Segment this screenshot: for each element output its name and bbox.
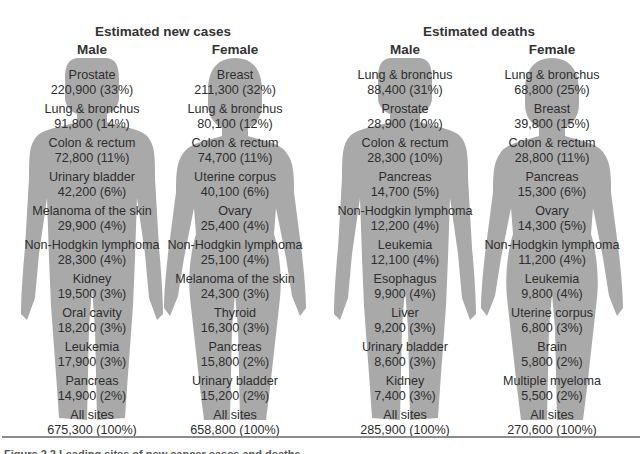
cancer-site-label: Non-Hodgkin lymphoma	[320, 204, 490, 219]
count-percent-value: 88,400 (31%)	[320, 83, 490, 98]
cancer-site-label: Uterine corpus	[150, 170, 320, 185]
count-percent-value: 211,300 (32%)	[150, 83, 320, 98]
cancer-site-label: Leukemia	[320, 238, 490, 253]
cancer-site-label: Colon & rectum	[150, 136, 320, 151]
count-percent-value: 9,200 (3%)	[320, 321, 490, 336]
count-percent-value: 7,400 (3%)	[320, 389, 490, 404]
list-item: Melanoma of the skin24,300 (3%)	[150, 272, 320, 306]
cancer-site-label: Multiple myeloma	[467, 374, 637, 389]
cancer-site-label: Kidney	[320, 374, 490, 389]
count-percent-value: 12,100 (4%)	[320, 253, 490, 268]
list-item: Non-Hodgkin lymphoma11,200 (4%)	[467, 238, 637, 272]
list-item: Kidney7,400 (3%)	[320, 374, 490, 408]
cancer-site-label: Thyroid	[150, 306, 320, 321]
count-percent-value: 8,600 (3%)	[320, 355, 490, 370]
count-percent-value: 14,700 (5%)	[320, 185, 490, 200]
cancer-site-label: Pancreas	[467, 170, 637, 185]
cancer-site-label: Leukemia	[467, 272, 637, 287]
list-item: Esophagus9,900 (4%)	[320, 272, 490, 306]
cancer-site-label: Non-Hodgkin lymphoma	[150, 238, 320, 253]
list-item: Brain5,800 (2%)	[467, 340, 637, 374]
list-item: Ovary25,400 (4%)	[150, 204, 320, 238]
count-percent-value: 25,100 (4%)	[150, 253, 320, 268]
count-percent-value: 25,400 (4%)	[150, 219, 320, 234]
cancer-site-label: Esophagus	[320, 272, 490, 287]
cancer-site-label: Pancreas	[320, 170, 490, 185]
count-percent-value: 80,100 (12%)	[150, 117, 320, 132]
count-percent-value: 15,200 (2%)	[150, 389, 320, 404]
column-new-cases-female: Breast211,300 (32%)Lung & bronchus80,100…	[150, 68, 320, 442]
cancer-site-label: Lung & bronchus	[150, 102, 320, 117]
list-item: Leukemia9,800 (4%)	[467, 272, 637, 306]
count-percent-value: 12,200 (4%)	[320, 219, 490, 234]
list-item: Prostate28,900 (10%)	[320, 102, 490, 136]
list-item: Urinary bladder15,200 (2%)	[150, 374, 320, 408]
list-item: Lung & bronchus88,400 (31%)	[320, 68, 490, 102]
cancer-site-label: Uterine corpus	[467, 306, 637, 321]
cancer-site-label: Urinary bladder	[150, 374, 320, 389]
list-item: Multiple myeloma5,500 (2%)	[467, 374, 637, 408]
count-percent-value: 28,800 (11%)	[467, 151, 637, 166]
list-item: Leukemia12,100 (4%)	[320, 238, 490, 272]
count-percent-value: 68,800 (25%)	[467, 83, 637, 98]
column-deaths-female: Lung & bronchus68,800 (25%)Breast39,800 …	[467, 68, 637, 442]
count-percent-value: 40,100 (6%)	[150, 185, 320, 200]
column-title-deaths-female: Female	[529, 42, 576, 57]
cancer-site-label: Brain	[467, 340, 637, 355]
count-percent-value: 5,500 (2%)	[467, 389, 637, 404]
cancer-site-label: Colon & rectum	[467, 136, 637, 151]
count-percent-value: 9,800 (4%)	[467, 287, 637, 302]
column-title-new-cases-female: Female	[212, 42, 259, 57]
count-percent-value: 15,300 (6%)	[467, 185, 637, 200]
cancer-site-label: Colon & rectum	[320, 136, 490, 151]
column-title-deaths-male: Male	[390, 42, 420, 57]
cancer-site-label: Urinary bladder	[320, 340, 490, 355]
list-item: Colon & rectum28,800 (11%)	[467, 136, 637, 170]
count-percent-value: 14,300 (5%)	[467, 219, 637, 234]
list-item: Urinary bladder8,600 (3%)	[320, 340, 490, 374]
list-item: Colon & rectum28,300 (10%)	[320, 136, 490, 170]
list-item: Lung & bronchus68,800 (25%)	[467, 68, 637, 102]
list-item: Uterine corpus40,100 (6%)	[150, 170, 320, 204]
cancer-site-label: Prostate	[320, 102, 490, 117]
cancer-site-label: Lung & bronchus	[467, 68, 637, 83]
cancer-site-label: All sites	[320, 408, 490, 423]
cancer-site-label: Ovary	[150, 204, 320, 219]
cancer-site-label: Non-Hodgkin lymphoma	[467, 238, 637, 253]
list-item: Breast39,800 (15%)	[467, 102, 637, 136]
cancer-site-label: Melanoma of the skin	[150, 272, 320, 287]
list-item: Pancreas14,700 (5%)	[320, 170, 490, 204]
list-item: Non-Hodgkin lymphoma25,100 (4%)	[150, 238, 320, 272]
count-percent-value: 6,800 (3%)	[467, 321, 637, 336]
count-percent-value: 28,900 (10%)	[320, 117, 490, 132]
count-percent-value: 39,800 (15%)	[467, 117, 637, 132]
cancer-site-label: Breast	[150, 68, 320, 83]
list-item: Pancreas15,300 (6%)	[467, 170, 637, 204]
column-deaths-male: Lung & bronchus88,400 (31%)Prostate28,90…	[320, 68, 490, 442]
list-item: Ovary14,300 (5%)	[467, 204, 637, 238]
count-percent-value: 5,800 (2%)	[467, 355, 637, 370]
cancer-site-label: Lung & bronchus	[320, 68, 490, 83]
count-percent-value: 16,300 (3%)	[150, 321, 320, 336]
cancer-site-label: All sites	[467, 408, 637, 423]
section-title-deaths: Estimated deaths	[423, 24, 535, 39]
figure-caption: Figure 2.2 Leading sites of new cancer c…	[4, 447, 301, 454]
cancer-site-label: Breast	[467, 102, 637, 117]
list-item: Thyroid16,300 (3%)	[150, 306, 320, 340]
list-item: Liver9,200 (3%)	[320, 306, 490, 340]
list-item: Colon & rectum74,700 (11%)	[150, 136, 320, 170]
count-percent-value: 15,800 (2%)	[150, 355, 320, 370]
count-percent-value: 11,200 (4%)	[467, 253, 637, 268]
list-item: Lung & bronchus80,100 (12%)	[150, 102, 320, 136]
list-item: Uterine corpus6,800 (3%)	[467, 306, 637, 340]
count-percent-value: 74,700 (11%)	[150, 151, 320, 166]
cancer-site-label: Liver	[320, 306, 490, 321]
count-percent-value: 28,300 (10%)	[320, 151, 490, 166]
column-title-new-cases-male: Male	[77, 42, 107, 57]
section-title-new-cases: Estimated new cases	[95, 24, 231, 39]
list-item: Breast211,300 (32%)	[150, 68, 320, 102]
divider	[2, 436, 640, 438]
list-item: Non-Hodgkin lymphoma12,200 (4%)	[320, 204, 490, 238]
cancer-site-label: Pancreas	[150, 340, 320, 355]
cancer-site-label: Ovary	[467, 204, 637, 219]
